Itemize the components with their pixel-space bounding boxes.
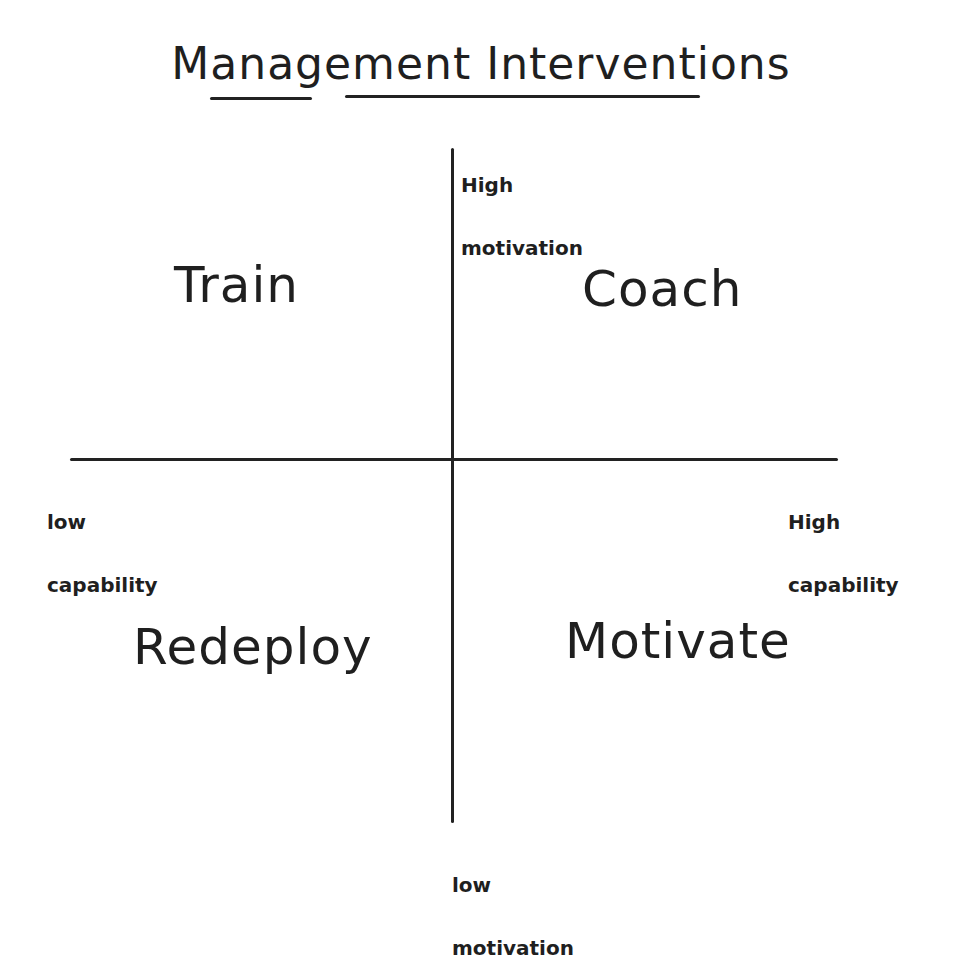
title-underline — [345, 95, 700, 98]
low-motivation-label: low motivation — [452, 833, 574, 959]
label-line: capability — [788, 575, 899, 596]
label-line: motivation — [452, 938, 574, 959]
title-underline — [210, 97, 312, 100]
quadrant-redeploy: Redeploy — [133, 618, 373, 676]
low-capability-label: low capability — [47, 470, 158, 617]
label-line: High — [461, 175, 583, 196]
label-line: capability — [47, 575, 158, 596]
label-line: High — [788, 512, 899, 533]
label-line: low — [452, 875, 574, 896]
diagram-title: Management Interventions — [0, 38, 962, 89]
label-line: motivation — [461, 238, 583, 259]
quadrant-coach: Coach — [582, 260, 742, 318]
capability-axis — [70, 458, 838, 461]
label-line: low — [47, 512, 158, 533]
motivation-axis — [451, 148, 454, 823]
high-motivation-label: High motivation — [461, 133, 583, 280]
quadrant-motivate: Motivate — [565, 612, 791, 670]
high-capability-label: High capability — [788, 470, 899, 617]
quadrant-train: Train — [174, 256, 299, 314]
